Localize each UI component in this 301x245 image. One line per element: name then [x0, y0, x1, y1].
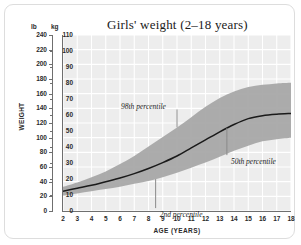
x-tick: 7: [127, 215, 141, 222]
y-tick-kg: 100: [56, 47, 73, 54]
chart-annotation: 2nd percentile: [160, 210, 203, 219]
y-tick-lb: 140: [27, 104, 47, 111]
y-tickmark-kg: [50, 147, 53, 148]
y-tick-lb: 40: [27, 178, 47, 185]
y-tick-lb: 160: [27, 90, 47, 97]
x-tick: 8: [142, 215, 156, 222]
y-tickmark-kg: [50, 67, 53, 68]
x-tick: 16: [256, 215, 270, 222]
y-tickmark-kg: [50, 179, 53, 180]
y-tickmark-kg: [50, 131, 53, 132]
x-tick: 6: [113, 215, 127, 222]
y-tick-kg: 10: [56, 191, 73, 198]
x-tick: 14: [227, 215, 241, 222]
x-tick: 2: [56, 215, 70, 222]
y-tickmark-kg: [50, 51, 53, 52]
y-tick-kg: 90: [56, 63, 73, 70]
y-tickmark-kg: [50, 83, 53, 84]
y-tick-lb: 200: [27, 60, 47, 67]
kg-axis-line: [52, 35, 53, 211]
y-axis-line: [62, 35, 63, 212]
y-tickmark-kg: [50, 211, 53, 212]
y-tick-kg: 70: [56, 95, 73, 102]
y-tick-lb: 0: [27, 207, 47, 214]
y-tickmark-kg: [50, 163, 53, 164]
x-tick: 13: [213, 215, 227, 222]
figure-frame: Girls' weight (2–18 years) lb kg WEIGHT …: [4, 4, 295, 239]
y-tickmark-kg: [50, 195, 53, 196]
y-tick-kg: 20: [56, 175, 73, 182]
y-tick-lb: 80: [27, 148, 47, 155]
y-tick-kg: 110: [56, 31, 73, 38]
y-tickmark-kg: [50, 99, 53, 100]
y-tick-kg: 80: [56, 79, 73, 86]
y-tick-kg: 60: [56, 111, 73, 118]
y-tick-kg: 0: [56, 207, 73, 214]
y-tick-kg: 40: [56, 143, 73, 150]
y-tick-lb: 120: [27, 119, 47, 126]
chart-annotation: 98th percentile: [121, 102, 166, 111]
x-tick: 17: [270, 215, 284, 222]
y-tick-kg: 50: [56, 127, 73, 134]
y-tick-lb: 220: [27, 46, 47, 53]
x-tick: 15: [241, 215, 255, 222]
y-tick-lb: 180: [27, 75, 47, 82]
y-tick-lb: 240: [27, 31, 47, 38]
y-tick-lb: 60: [27, 163, 47, 170]
x-tick: 3: [70, 215, 84, 222]
y-tickmark-kg: [50, 35, 53, 36]
y-tick-lb: 100: [27, 134, 47, 141]
y-tick-lb: 20: [27, 192, 47, 199]
x-tick: 4: [85, 215, 99, 222]
y-tick-kg: 30: [56, 159, 73, 166]
y-tickmark-kg: [50, 115, 53, 116]
chart-annotation: 50th percentile: [231, 157, 276, 166]
x-tick: 18: [284, 215, 298, 222]
x-tick: 5: [99, 215, 113, 222]
